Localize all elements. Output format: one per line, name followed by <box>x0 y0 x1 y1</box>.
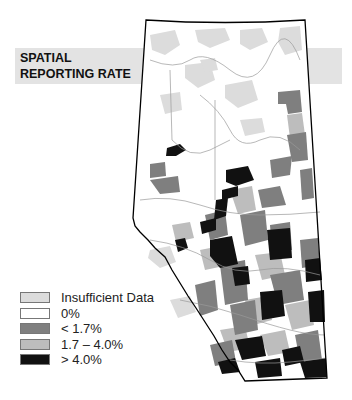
title-line-2: REPORTING RATE <box>20 66 131 82</box>
legend-swatch <box>20 339 50 350</box>
legend-swatch <box>20 323 50 334</box>
legend-swatch <box>20 354 50 365</box>
legend-label: Insufficient Data <box>61 290 154 305</box>
legend-swatch <box>20 308 50 319</box>
title-line-1: SPATIAL <box>20 50 131 66</box>
legend-item-high: > 4.0% <box>20 352 154 368</box>
legend-label: 1.7 – 4.0% <box>61 337 123 352</box>
legend: Insufficient Data 0% < 1.7% 1.7 – 4.0% >… <box>20 290 154 368</box>
legend-item-insufficient: Insufficient Data <box>20 290 154 306</box>
legend-item-low: < 1.7% <box>20 321 154 337</box>
legend-item-zero: 0% <box>20 306 154 322</box>
map-title: SPATIAL REPORTING RATE <box>20 50 131 82</box>
legend-label: > 4.0% <box>61 352 102 367</box>
legend-swatch <box>20 292 50 303</box>
legend-label: 0% <box>61 306 80 321</box>
legend-label: < 1.7% <box>61 321 102 336</box>
legend-item-mid: 1.7 – 4.0% <box>20 337 154 353</box>
